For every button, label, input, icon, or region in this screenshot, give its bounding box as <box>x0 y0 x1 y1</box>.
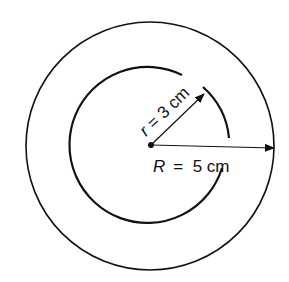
concentric-circles-diagram: r = 3 cm R= 5 cm <box>0 0 289 282</box>
outer-radius-label: R= 5 cm <box>153 157 230 176</box>
inner-circle-arc-right <box>203 87 229 138</box>
inner-circle <box>69 67 222 223</box>
outer-radius-arrow <box>151 145 274 148</box>
